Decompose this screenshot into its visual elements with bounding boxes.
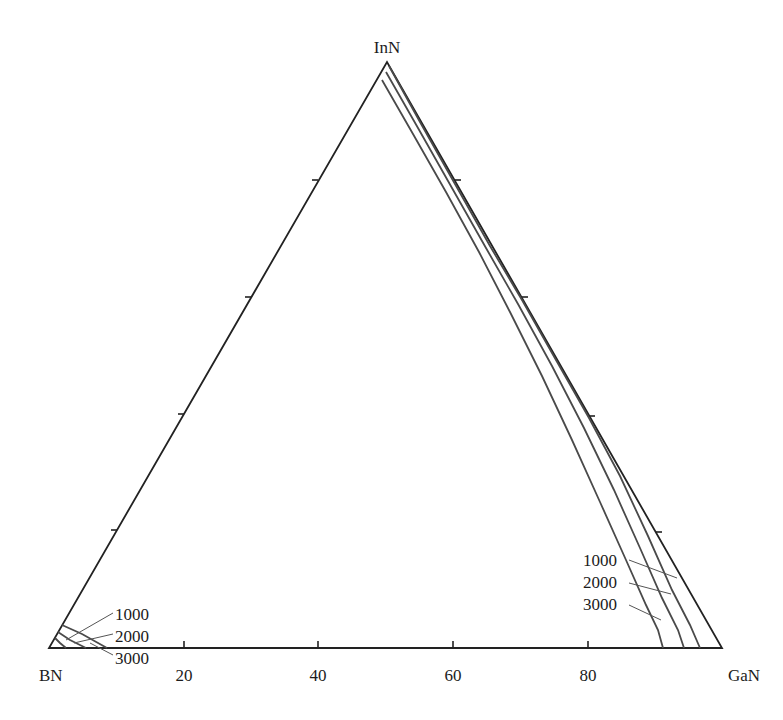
vertex-label-gan: GaN [728, 666, 760, 685]
leader-line [629, 560, 677, 578]
chart-labels: 100020003000100020003000InNBNGaN20406080 [39, 38, 760, 685]
leader-line [629, 605, 661, 620]
curve-1000-bn-corner [55, 638, 66, 648]
curve-label-2000: 2000 [115, 627, 149, 646]
axis-ticks [111, 180, 662, 648]
vertex-label-bn: BN [39, 666, 63, 685]
triangle-frame [49, 62, 722, 648]
axis-tick-label: 60 [445, 666, 462, 685]
curve-1000-gan-inn-side [389, 66, 700, 648]
curve-label-1000: 1000 [583, 551, 617, 570]
axis-tick-label: 20 [176, 666, 193, 685]
axis-tick-label: 80 [580, 666, 597, 685]
curve-label-1000: 1000 [115, 605, 149, 624]
vertex-label-inn: InN [374, 38, 400, 57]
triangle-outline [49, 62, 722, 648]
axis-tick-label: 40 [310, 666, 327, 685]
curve-label-2000: 2000 [583, 573, 617, 592]
leader-line [74, 634, 113, 643]
curve-3000-gan-inn-side [382, 80, 663, 648]
curve-label-3000: 3000 [115, 649, 149, 668]
curve-label-3000: 3000 [583, 595, 617, 614]
leader-line [629, 583, 671, 594]
ternary-phase-diagram: 100020003000100020003000InNBNGaN20406080 [0, 0, 783, 720]
